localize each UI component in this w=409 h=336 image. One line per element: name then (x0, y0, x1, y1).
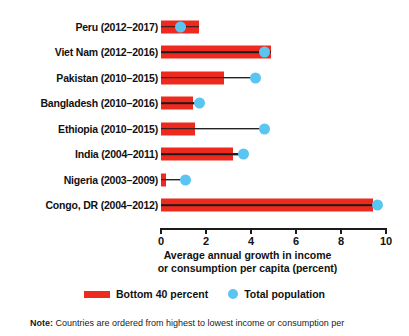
x-axis-title-line-2: or consumption per capita (percent) (86, 262, 409, 275)
row-label-3: Bangladesh (2010–2016) (40, 97, 158, 109)
legend-item-total-population: Total population (228, 288, 325, 300)
x-tick (385, 228, 387, 234)
x-tick-label: 4 (248, 235, 254, 247)
row-label-4: Ethiopia (2010–2015) (58, 123, 158, 135)
chart-row: Nigeria (2003–2009) (0, 167, 409, 193)
row-track (161, 14, 409, 40)
row-connector-overlay (161, 153, 243, 155)
x-axis-title: Average annual growth in income or consu… (0, 249, 409, 275)
x-tick (205, 228, 207, 234)
x-tick (295, 228, 297, 234)
chart-row: Pakistan (2010–2015) (0, 65, 409, 91)
chart-note: Note: Countries are ordered from highest… (30, 318, 400, 329)
row-track (161, 116, 409, 142)
x-tick-label: 10 (380, 235, 392, 247)
dot-total-population (250, 72, 261, 83)
note-prefix: Note: (30, 318, 53, 328)
x-axis: 0246810 (161, 228, 386, 230)
row-track (161, 193, 409, 219)
legend-item-bottom-40: Bottom 40 percent (84, 288, 208, 300)
x-tick-label: 0 (158, 235, 164, 247)
chart-row: Peru (2012–2017) (0, 14, 409, 40)
row-track (161, 65, 409, 91)
row-label-6: Nigeria (2003–2009) (64, 174, 158, 186)
row-label-2: Pakistan (2010–2015) (56, 72, 158, 84)
chart-legend: Bottom 40 percent Total population (0, 288, 409, 300)
legend-bar-swatch-icon (84, 291, 110, 298)
row-label-5: India (2004–2011) (75, 148, 158, 160)
row-track (161, 40, 409, 66)
chart-row: Congo, DR (2004–2012) (0, 193, 409, 219)
x-tick-label: 2 (203, 235, 209, 247)
dot-total-population (238, 149, 249, 160)
x-tick (250, 228, 252, 234)
chart-row: Ethiopia (2010–2015) (0, 116, 409, 142)
legend-label-bottom-40: Bottom 40 percent (116, 288, 208, 300)
plot-area: Peru (2012–2017)Viet Nam (2012–2016)Paki… (0, 14, 409, 226)
row-label-1: Viet Nam (2012–2016) (55, 46, 158, 58)
row-track (161, 91, 409, 117)
row-connector-overlay (161, 77, 256, 79)
income-growth-chart: Peru (2012–2017)Viet Nam (2012–2016)Paki… (0, 0, 409, 336)
dot-total-population (372, 200, 383, 211)
row-connector-overlay (161, 128, 265, 130)
dot-total-population (180, 174, 191, 185)
row-connector-overlay (161, 51, 271, 53)
row-track (161, 142, 409, 168)
chart-row: Viet Nam (2012–2016) (0, 40, 409, 66)
dot-total-population (259, 47, 270, 58)
legend-label-total-population: Total population (244, 288, 325, 300)
x-tick-label: 6 (293, 235, 299, 247)
x-axis-title-line-1: Average annual growth in income (86, 249, 409, 262)
note-text: Countries are ordered from highest to lo… (56, 318, 345, 328)
x-tick (340, 228, 342, 234)
x-tick-label: 8 (338, 235, 344, 247)
chart-row: Bangladesh (2010–2016) (0, 91, 409, 117)
dot-total-population (194, 98, 205, 109)
row-connector-overlay (161, 204, 377, 206)
chart-row: India (2004–2011) (0, 142, 409, 168)
row-track (161, 167, 409, 193)
legend-dot-swatch-icon (228, 289, 238, 299)
row-label-0: Peru (2012–2017) (75, 21, 158, 33)
dot-total-population (175, 21, 186, 32)
row-label-7: Congo, DR (2004–2012) (45, 199, 158, 211)
dot-total-population (259, 123, 270, 134)
x-tick (160, 228, 162, 234)
